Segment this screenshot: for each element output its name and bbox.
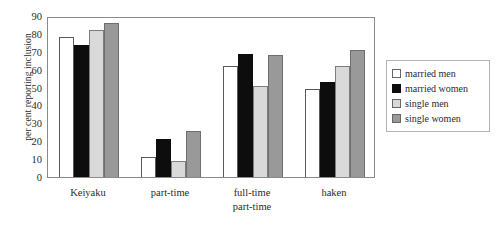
legend-item-label: single women [405, 113, 461, 124]
bar [74, 45, 89, 177]
bar [350, 50, 365, 177]
plot-area [47, 17, 375, 178]
x-tick-label: full-timepart-time [211, 186, 293, 214]
x-tick-label-line: part-time [151, 187, 189, 198]
legend-item: married women [392, 81, 485, 96]
bar-group [294, 18, 376, 177]
y-tick-label: 30 [22, 119, 42, 129]
plot-bars-container [48, 18, 374, 177]
bar [141, 157, 156, 177]
y-tick-label: 40 [22, 101, 42, 111]
bar [305, 89, 320, 177]
y-tick-label: 0 [22, 173, 42, 183]
y-tick-label: 70 [22, 48, 42, 58]
legend-item-label: married men [405, 68, 456, 79]
legend-item-label: single men [405, 98, 449, 109]
bar [238, 54, 253, 177]
legend-swatch-icon [392, 84, 401, 93]
legend-swatch-icon [392, 114, 401, 123]
x-tick-label: haken [293, 186, 375, 200]
bar-group [130, 18, 212, 177]
y-tick-label: 80 [22, 30, 42, 40]
y-axis-tick-labels: 9080706050403020100 [22, 17, 42, 178]
bar [59, 37, 74, 177]
x-tick-label: part-time [129, 186, 211, 200]
legend-swatch-icon [392, 69, 401, 78]
bar [335, 66, 350, 177]
legend-item: single men [392, 96, 485, 111]
x-tick-label-line: part-time [211, 200, 293, 214]
bar [104, 23, 119, 177]
bar [223, 66, 238, 177]
chart-legend: married menmarried womensingle mensingle… [386, 60, 490, 132]
bar [171, 161, 186, 177]
x-tick-label-line: full-time [234, 187, 271, 198]
x-tick-label: Keiyaku [47, 186, 129, 200]
bar [320, 82, 335, 177]
bar [156, 139, 171, 177]
bar-chart-figure: per cent reporting inclusion 90807060504… [0, 0, 499, 232]
bar-group [212, 18, 294, 177]
bar-group [48, 18, 130, 177]
legend-item-label: married women [405, 83, 468, 94]
legend-swatch-icon [392, 99, 401, 108]
x-axis-tick-labels: Keiyakupart-timefull-timepart-timehaken [47, 186, 375, 230]
y-tick-label: 50 [22, 84, 42, 94]
y-tick-label: 10 [22, 155, 42, 165]
y-tick-label: 90 [22, 12, 42, 22]
y-tick-label: 60 [22, 66, 42, 76]
y-tick-label: 20 [22, 137, 42, 147]
legend-item: single women [392, 111, 485, 126]
x-tick-label-line: haken [321, 187, 346, 198]
bar [268, 55, 283, 177]
bar [89, 30, 104, 177]
bar [253, 86, 268, 177]
bar [186, 131, 201, 178]
legend-item: married men [392, 66, 485, 81]
x-tick-label-line: Keiyaku [70, 187, 106, 198]
